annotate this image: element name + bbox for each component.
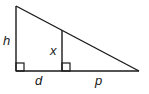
label-d: d bbox=[35, 73, 43, 88]
triangle-diagram: h x d p bbox=[0, 0, 149, 94]
hypotenuse-segment bbox=[16, 6, 139, 71]
label-x: x bbox=[49, 43, 57, 58]
label-h: h bbox=[3, 33, 10, 48]
right-angle-marker-left bbox=[16, 63, 24, 71]
right-angle-marker-middle bbox=[62, 63, 70, 71]
label-p: p bbox=[94, 73, 102, 88]
